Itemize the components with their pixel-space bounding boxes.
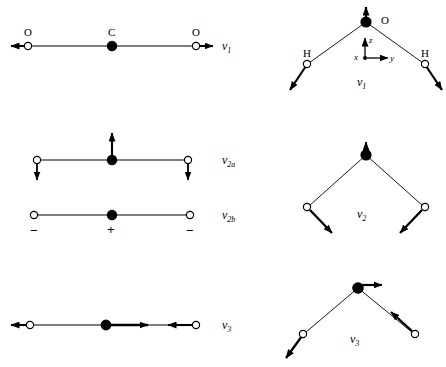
h2o-axes-inset [363,38,388,60]
co2-v2b-sign-left: − [30,224,38,237]
co2-v1-atom-c [107,41,116,50]
h2o-v3-atom-o [353,283,363,293]
co2-v3-atom-o-right [192,321,199,328]
h2o-v1-left-h-arrow [290,66,306,90]
co2-v1-label-o-left: O [24,27,32,38]
h2o-v3-right-h-arrow [391,312,412,331]
h2o-v3-bond-left [305,288,358,333]
co2-mode-label-v2a: ν2a [222,154,235,169]
h2o-v2-atom-h-left [303,203,310,210]
co2-v1-label-c: C [108,27,115,38]
h2o-mode-label-v1: ν1 [357,76,366,91]
h2o-v2-bond-right [366,155,423,206]
co2-v1-atom-o-right [192,42,199,49]
co2-mode-v2b [30,210,193,219]
h2o-mode-label-v3: ν3 [350,333,359,348]
co2-v1-label-o-right: O [192,27,200,38]
h2o-v3-atom-h-right [411,330,418,337]
h2o-v3-bond-right [358,288,413,333]
h2o-v1-atom-h-right [421,60,428,67]
co2-mode-label-v1: ν1 [222,40,231,55]
h2o-v1-label-o: O [381,15,389,26]
h2o-v3-left-h-arrow [286,336,302,358]
co2-mode-v2a-sub: 2a [227,160,235,169]
h2o-mode-v3-sub: 3 [355,339,359,348]
co2-v2b-atom-c [107,210,116,219]
co2-v2b-atom-o-right [186,211,193,218]
h2o-v1-atom-h-left [303,60,310,67]
h2o-v1-label-h-right: H [421,48,429,59]
co2-mode-v2b-sub: 2b [227,215,235,224]
co2-mode-label-v3: ν3 [222,319,231,334]
co2-v2a-atom-c [107,155,116,164]
h2o-v1-label-h-left: H [303,48,311,59]
co2-v2b-sign-center: + [107,223,115,236]
co2-v1-atom-o-left [24,42,31,49]
co2-v2a-atom-o-left [33,156,40,163]
h2o-axis-label-z: z [369,36,373,45]
co2-v2b-sign-right: − [186,224,194,237]
co2-v3-atom-c [101,320,111,330]
h2o-v3-atom-h-left [299,330,306,337]
h2o-axis-label-y: y [390,54,394,63]
co2-v2b-atom-o-left [30,211,37,218]
co2-v3-atom-o-left [26,321,33,328]
figure-canvas: O C O ν1 ν2a ν2b − + − ν3 O H H z y x ν1… [0,0,446,367]
h2o-v1-bond-right [366,22,423,63]
h2o-v2-right-h-arrow [400,210,422,233]
h2o-v2-atom-o [361,150,371,160]
co2-mode-v1 [11,41,213,50]
co2-v2a-atom-o-right [184,156,191,163]
co2-mode-v1-sub: 1 [227,46,231,55]
co2-mode-label-v2b: ν2b [222,209,235,224]
h2o-mode-v1-sub: 1 [362,82,366,91]
co2-mode-v3 [11,320,200,330]
h2o-axis-label-x: x [354,53,358,62]
co2-mode-v2a [33,133,191,180]
h2o-mode-label-v2: ν2 [357,208,366,223]
h2o-v2-left-h-arrow [310,210,332,233]
h2o-mode-v2-sub: 2 [362,214,366,223]
co2-mode-v3-sub: 3 [227,325,231,334]
h2o-v2-atom-h-right [421,203,428,210]
h2o-axis-x-origin [363,56,367,60]
h2o-v1-atom-o [361,17,371,27]
h2o-v1-right-h-arrow [426,66,442,90]
h2o-v2-bond-left [309,155,366,206]
